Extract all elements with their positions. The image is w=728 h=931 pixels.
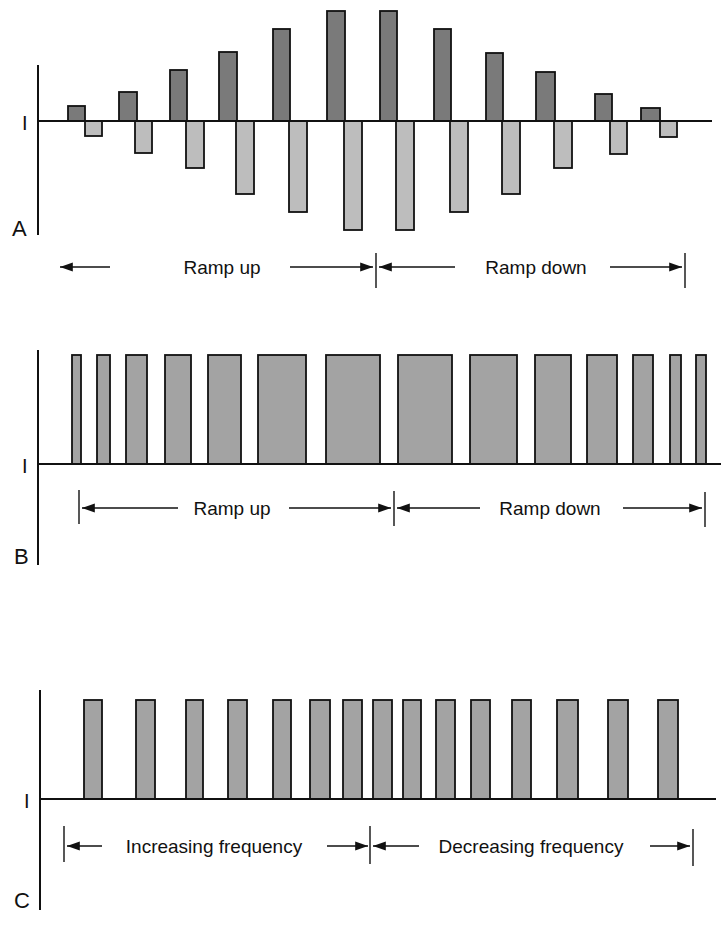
pulse-bar — [273, 700, 291, 799]
positive-pulse-bar — [536, 72, 555, 121]
panel-c: I C Increasing frequency Decreasing freq… — [14, 690, 716, 913]
positive-pulse-bar — [486, 53, 503, 121]
pulse-bar — [436, 700, 455, 799]
pulse-bar — [696, 355, 706, 464]
pulse-bar — [608, 700, 628, 799]
pulse-bar — [633, 355, 653, 464]
negative-pulse-bar — [85, 121, 102, 136]
panel-b-pulse-bars — [72, 355, 706, 464]
pulse-bar — [326, 355, 380, 464]
negative-pulse-bar — [660, 121, 677, 137]
panel-a-ramp-down-label: Ramp down — [485, 257, 586, 278]
negative-pulse-bar — [289, 121, 307, 212]
negative-pulse-bar — [344, 121, 362, 230]
positive-pulse-bar — [380, 11, 397, 121]
pulse-bar — [658, 700, 678, 799]
pulse-bar — [136, 700, 155, 799]
positive-pulse-bar — [68, 106, 85, 121]
pulse-bar — [535, 355, 571, 464]
panel-a-ramp-annotation: Ramp up Ramp down — [60, 253, 685, 288]
pulse-bar — [343, 700, 362, 799]
panel-c-pulse-bars — [84, 700, 678, 799]
pulse-bar — [208, 355, 241, 464]
pulse-bar — [72, 355, 81, 464]
pulse-bar — [228, 700, 247, 799]
pulse-bar — [126, 355, 147, 464]
panel-b-ramp-down-label: Ramp down — [499, 498, 600, 519]
negative-pulse-bar — [186, 121, 204, 168]
positive-pulse-bar — [119, 92, 137, 121]
panel-a-letter: A — [12, 216, 27, 241]
panel-c-increasing-frequency-label: Increasing frequency — [126, 836, 303, 857]
positive-pulse-bar — [273, 29, 290, 121]
positive-pulse-bar — [595, 94, 612, 121]
pulse-bar — [398, 355, 452, 464]
panel-a-ramp-up-label: Ramp up — [183, 257, 260, 278]
panel-c-axis-label: I — [24, 790, 30, 812]
negative-pulse-bar — [450, 121, 468, 212]
panel-b: I B Ramp up Ramp down — [14, 350, 721, 569]
negative-pulse-bar — [610, 121, 627, 154]
pulse-bar — [587, 355, 617, 464]
panel-a: I A Ramp up Ramp down — [12, 11, 712, 288]
panel-b-ramp-up-label: Ramp up — [193, 498, 270, 519]
positive-pulse-bar — [434, 29, 451, 121]
negative-pulse-bar — [396, 121, 414, 230]
positive-pulse-bar — [170, 70, 187, 121]
pulse-bar — [84, 700, 102, 799]
pulse-bar — [670, 355, 681, 464]
pulse-bar — [512, 700, 531, 799]
pulse-bar — [471, 700, 490, 799]
pulse-bar — [258, 355, 306, 464]
negative-pulse-bar — [135, 121, 152, 153]
panel-b-axis-label: I — [22, 455, 28, 477]
panel-b-ramp-annotation: Ramp up Ramp down — [79, 490, 705, 527]
panel-c-letter: C — [14, 888, 30, 913]
pulse-bar — [403, 700, 421, 799]
negative-pulse-bar — [236, 121, 254, 194]
pulse-bar — [165, 355, 191, 464]
negative-pulse-bar — [502, 121, 520, 194]
panel-a-axis-label: I — [22, 112, 28, 134]
positive-pulse-bar — [327, 11, 345, 121]
positive-pulse-bar — [219, 52, 237, 121]
pulse-bar — [470, 355, 517, 464]
positive-pulse-bar — [641, 108, 660, 121]
pulse-bar — [310, 700, 330, 799]
pulse-bar — [97, 355, 110, 464]
pulse-bar — [373, 700, 392, 799]
panel-b-letter: B — [14, 544, 29, 569]
negative-pulse-bar — [554, 121, 572, 168]
pulse-bar — [557, 700, 578, 799]
pulse-waveform-figure: I A Ramp up Ramp down I B Ramp up Ramp d… — [0, 0, 728, 931]
pulse-bar — [186, 700, 203, 799]
panel-c-decreasing-frequency-label: Decreasing frequency — [439, 836, 624, 857]
panel-c-frequency-annotation: Increasing frequency Decreasing frequenc… — [64, 826, 693, 866]
